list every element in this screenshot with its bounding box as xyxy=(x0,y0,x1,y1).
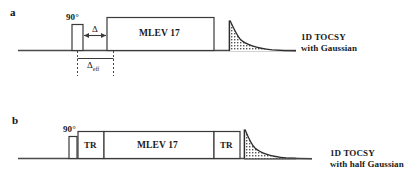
panel-b-caption-line1: 1D TOCSY xyxy=(330,148,375,158)
panel-a-effective-delay-subscript: eff xyxy=(93,66,100,72)
panel-a-delay-label: Δ xyxy=(92,24,98,35)
panel-b-caption: 1D TOCSY with half Gaussian xyxy=(330,148,404,170)
panel-a-90-pulse-label: 90° xyxy=(66,12,79,23)
panel-a-caption: 1D TOCSY with Gaussian xyxy=(301,32,357,54)
panel-b-mlev-label: MLEV 17 xyxy=(137,140,178,151)
panel-a-caption-line1: 1D TOCSY xyxy=(301,32,346,42)
panel-b: b 90° TR MLEV 17 TR xyxy=(0,95,412,190)
panel-b-caption-line2: with half Gaussian xyxy=(330,159,404,170)
panel-a-mlev-label: MLEV 17 xyxy=(139,28,180,39)
panel-a-effective-delay-label: Δeff xyxy=(87,60,99,72)
panel-a-caption-line2: with Gaussian xyxy=(301,43,357,54)
panel-b-trim-label-right: TR xyxy=(220,140,233,151)
panel-b-pulse-sequence xyxy=(0,95,412,190)
panel-a: a 90° xyxy=(0,0,412,95)
panel-a-90-pulse-block xyxy=(72,25,83,51)
panel-a-acquisition-decay xyxy=(229,21,296,51)
panel-b-trim-label-left: TR xyxy=(84,140,97,151)
panel-b-90-pulse-label: 90° xyxy=(63,124,76,135)
panel-b-acquisition-decay xyxy=(244,130,312,159)
panel-b-90-pulse-block xyxy=(69,137,77,159)
